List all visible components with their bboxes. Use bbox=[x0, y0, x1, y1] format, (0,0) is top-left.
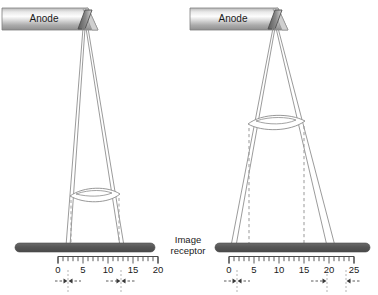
beam-edge-outer-right bbox=[88, 28, 124, 246]
projection-lines-left bbox=[71, 198, 119, 246]
penumbra-markers-right bbox=[224, 270, 361, 292]
ruler-tick-label: 20 bbox=[153, 264, 164, 275]
panel-left: Anode 05101520 bbox=[2, 8, 163, 292]
ruler-tick-label: 15 bbox=[299, 264, 310, 275]
radiographic-magnification-diagram: Anode 05101520 bbox=[0, 0, 378, 295]
penumbra-arrow-right-head bbox=[122, 279, 126, 284]
penumbra-arrow-left-head bbox=[117, 279, 121, 284]
beam-edge-outer-left bbox=[231, 28, 273, 246]
xray-beam-left bbox=[66, 28, 124, 246]
ruler-left: 05101520 bbox=[55, 257, 163, 276]
anode-assembly-right: Anode bbox=[190, 8, 288, 30]
ruler-tick-label: 10 bbox=[274, 264, 285, 275]
ruler-tick-label: 5 bbox=[80, 264, 85, 275]
penumbra-arrow-left-head bbox=[64, 279, 68, 284]
projection-lines-right bbox=[249, 126, 304, 246]
beam-edge-outer-right bbox=[278, 28, 335, 246]
xray-beam-right bbox=[231, 28, 335, 246]
beam-edge-inner-right bbox=[86, 28, 120, 246]
ruler-tick-label: 0 bbox=[55, 264, 60, 275]
beam-edge-inner-left bbox=[236, 28, 275, 246]
ruler-tick-label: 10 bbox=[103, 264, 114, 275]
penumbra-arrow-left-head bbox=[323, 279, 327, 284]
penumbra-arrow-right-head bbox=[69, 279, 73, 284]
image-receptor-bar bbox=[215, 243, 370, 252]
ruler-tick-label: 20 bbox=[324, 264, 335, 275]
image-receptor-label: Image receptor bbox=[171, 234, 206, 256]
penumbra-markers-left bbox=[55, 270, 136, 292]
ruler-tick-label: 0 bbox=[226, 264, 231, 275]
beam-edge-inner-right bbox=[276, 28, 327, 246]
ruler-tick-label: 15 bbox=[128, 264, 139, 275]
beam-edge-inner-left bbox=[70, 28, 85, 246]
penumbra-arrow-left-head bbox=[233, 279, 237, 284]
figure-canvas: Anode 05101520 bbox=[0, 0, 378, 295]
penumbra-arrow-right-head bbox=[238, 279, 242, 284]
ruler-tick-group bbox=[229, 257, 354, 264]
image-receptor-label-line2: receptor bbox=[171, 245, 206, 256]
anode-label: Anode bbox=[219, 13, 248, 24]
beam-edge-outer-left bbox=[66, 28, 83, 246]
object-right bbox=[248, 115, 305, 129]
ruler-tick-label: 25 bbox=[349, 264, 360, 275]
image-receptor-bar bbox=[15, 243, 155, 252]
image-receptor-label-line1: Image bbox=[175, 234, 201, 245]
panel-right: Anode 0510152025 bbox=[190, 8, 370, 292]
anode-assembly-left: Anode bbox=[2, 8, 98, 30]
ruler-label-group: 05101520 bbox=[55, 264, 163, 275]
penumbra-arrow-right-head bbox=[347, 279, 351, 284]
ruler-tick-label: 5 bbox=[251, 264, 256, 275]
ruler-tick-group bbox=[58, 257, 158, 264]
anode-label: Anode bbox=[30, 13, 59, 24]
ruler-right: 0510152025 bbox=[226, 257, 359, 276]
ruler-label-group: 0510152025 bbox=[226, 264, 359, 275]
